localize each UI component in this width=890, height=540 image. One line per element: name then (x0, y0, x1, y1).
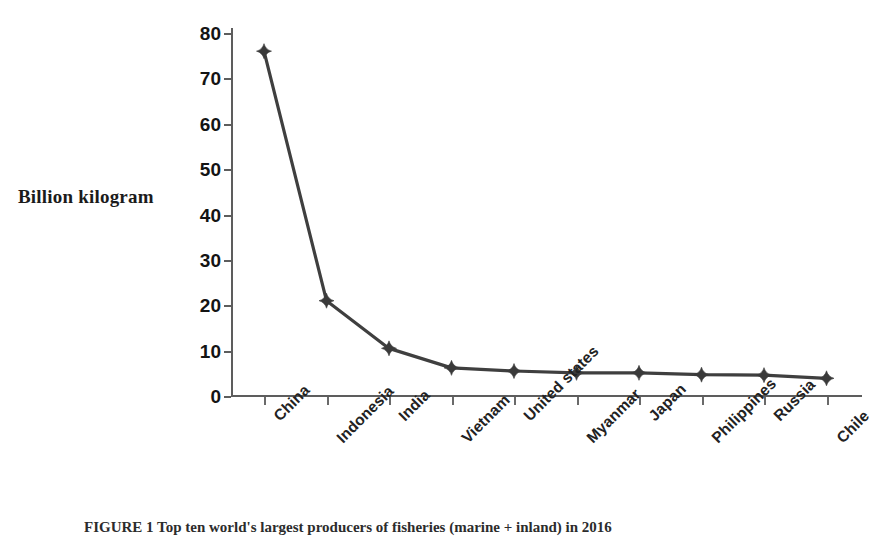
y-axis-tick-mark (224, 78, 231, 80)
x-axis-category-labels: ChinaIndonesiaIndiaVietnamUnited statesM… (231, 400, 890, 510)
x-axis-category-label: Chile (833, 407, 873, 447)
y-axis-tick-label: 20 (200, 296, 221, 315)
y-axis-tick-label: 40 (200, 205, 221, 224)
y-axis-tick-mark (224, 169, 231, 171)
data-point-marker (444, 360, 459, 375)
series-markers (257, 44, 835, 386)
y-axis-tick-label: 70 (200, 69, 221, 88)
y-axis-tick-mark (224, 215, 231, 217)
series-line-production (264, 51, 827, 378)
y-axis-tick-mark (224, 124, 231, 126)
plot-area (231, 28, 862, 400)
y-axis-tick-labels: 01020304050607080 (181, 0, 231, 372)
data-point-marker (819, 371, 834, 386)
y-axis-tick-mark (224, 396, 231, 398)
data-point-marker (507, 364, 522, 379)
y-axis-tick-label: 50 (200, 160, 221, 179)
y-axis-tick-label: 10 (200, 341, 221, 360)
y-axis-tick-mark (224, 260, 231, 262)
y-axis-tick-label: 60 (200, 114, 221, 133)
data-point-marker (632, 365, 647, 380)
data-series-svg (231, 28, 862, 400)
y-axis-tick-label: 30 (200, 250, 221, 269)
data-point-marker (694, 367, 709, 382)
y-axis-tick-mark (224, 33, 231, 35)
y-axis-tick-label: 80 (200, 24, 221, 43)
y-axis-title: Billion kilogram (18, 186, 154, 208)
data-point-marker (257, 44, 272, 59)
figure-container: Billion kilogram 01020304050607080 China… (0, 0, 890, 540)
y-axis-tick-mark (224, 351, 231, 353)
y-axis-tick-mark (224, 305, 231, 307)
figure-caption: FIGURE 1 Top ten world's largest produce… (84, 519, 864, 536)
y-axis-tick-label: 0 (210, 387, 221, 406)
x-axis-category-label: Vietnam (458, 391, 514, 447)
